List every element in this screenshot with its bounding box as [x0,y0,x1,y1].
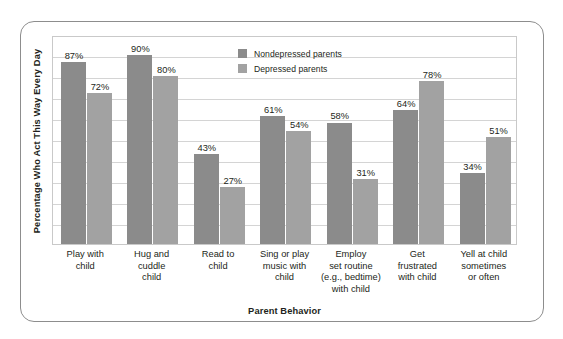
x-tick-line: (e.g., bedtime) [318,272,384,284]
bar-value-label: 58% [325,111,355,121]
bar-value-label: 31% [351,168,381,178]
bar-value-label: 87% [59,51,89,61]
bar [260,116,285,244]
x-tick-line: Sing or play [251,249,317,261]
x-axis-tick-labels: Play withchildHug andcuddlechildRead toc… [52,249,517,305]
bar [460,173,485,244]
bar [327,123,352,245]
x-tick-line: Play with [52,249,118,261]
bar-value-label: 61% [258,105,288,115]
bar [127,55,152,244]
legend-swatch-icon [238,49,247,58]
x-tick-line: Yell at child [451,249,517,261]
bar-value-label: 54% [284,120,314,130]
bar-value-label: 34% [458,162,488,172]
bar [286,131,311,244]
bar-value-label: 64% [391,99,421,109]
bar [419,81,444,244]
x-tick-label: Getfrustratedwith child [384,249,450,284]
bar [153,76,178,244]
x-tick-line: child [251,272,317,284]
bar-value-label: 80% [151,65,181,75]
x-tick-label: Sing or playmusic withchild [251,249,317,284]
legend-item: Depressed parents [238,62,342,75]
bar [353,179,378,244]
x-tick-line: cuddle [118,261,184,273]
bar-value-label: 78% [417,70,447,80]
x-tick-line: Read to [185,249,251,261]
x-tick-line: child [118,272,184,284]
bar-group: 90%80% [119,37,185,244]
bar-group: 64%78% [385,37,451,244]
bar [194,154,219,244]
x-tick-line: Employ [318,249,384,261]
legend-label: Depressed parents [254,64,327,74]
bar [486,137,511,244]
x-tick-line: child [52,261,118,273]
x-tick-line: with child [384,272,450,284]
x-axis-title: Parent Behavior [52,306,517,316]
bar-value-label: 27% [218,176,248,186]
legend-item: Nondepressed parents [238,47,342,60]
x-tick-label: Employset routine(e.g., bedtime)with chi… [318,249,384,295]
x-tick-label: Hug andcuddlechild [118,249,184,284]
bar [393,110,418,244]
bar-group: 34%51% [452,37,518,244]
legend-label: Nondepressed parents [254,49,342,59]
bar-value-label: 72% [85,82,115,92]
x-tick-line: music with [251,261,317,273]
chart-legend: Nondepressed parentsDepressed parents [238,47,342,77]
legend-swatch-icon [238,64,247,73]
x-tick-label: Read tochild [185,249,251,272]
bar-value-label: 43% [192,143,222,153]
plot-area: 87%72%90%80%43%27%61%54%58%31%64%78%34%5… [52,36,517,245]
x-tick-line: set routine [318,261,384,273]
bar-group: 87%72% [53,37,119,244]
bar-value-label: 90% [125,44,155,54]
x-tick-label: Play withchild [52,249,118,272]
x-tick-line: sometimes [451,261,517,273]
x-tick-line: child [185,261,251,273]
x-tick-line: with child [318,284,384,296]
bar [87,93,112,244]
x-tick-line: Get [384,249,450,261]
bar-value-label: 51% [484,126,514,136]
x-tick-label: Yell at childsometimesor often [451,249,517,284]
bar [61,62,86,244]
y-axis-title: Percentage Who Act This Way Every Day [30,36,44,246]
x-tick-line: Hug and [118,249,184,261]
bar [220,187,245,244]
x-tick-line: or often [451,272,517,284]
x-tick-line: frustrated [384,261,450,273]
